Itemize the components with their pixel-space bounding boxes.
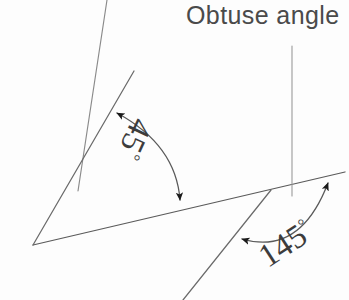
obtuse-angle-caption: Obtuse angle	[186, 3, 340, 28]
vertical-ray	[78, 0, 107, 191]
oblique-ray	[33, 71, 134, 245]
geometry-figure: Obtuse angle 45° 145°	[0, 0, 349, 300]
